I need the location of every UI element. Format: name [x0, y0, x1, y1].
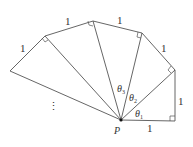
edge-label-a1-a2: 1 [178, 95, 184, 107]
continuation-ellipsis: ⋮ [48, 100, 59, 112]
edge-label-a3-a4: 1 [117, 14, 123, 26]
angle-label-theta3: θ3 [117, 83, 125, 95]
outer-unit-edges [10, 21, 175, 121]
spoke-p-a6 [10, 71, 121, 120]
edge-label-a5-a6: 1 [20, 42, 26, 54]
angle-label-theta2: θ2 [129, 92, 137, 104]
spiral-of-right-triangles: P 1 1 1 1 1 1 θ1 θ2 θ3 ⋮ [0, 0, 193, 147]
point-p-label: P [113, 125, 120, 136]
spoke-p-a1 [121, 120, 175, 121]
edge-label-p-a1: 1 [147, 122, 153, 134]
right-angle-marker-a2 [168, 66, 171, 73]
point-p [119, 118, 122, 121]
spoke-p-a3 [121, 33, 142, 120]
right-angle-marker-a1 [170, 116, 175, 121]
angle-label-theta1: θ1 [135, 108, 143, 120]
edge-label-a2-a3: 1 [161, 42, 167, 54]
edge-label-a4-a5: 1 [65, 15, 71, 27]
